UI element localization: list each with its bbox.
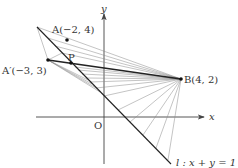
- label-b: B(4, 2): [184, 74, 218, 85]
- point-a-prime: [46, 58, 50, 62]
- point-b: [179, 77, 183, 81]
- fan-lines: [37, 27, 181, 160]
- label-y-axis: y: [100, 3, 107, 14]
- label-a-prime: A′(−3, 3): [1, 65, 47, 76]
- label-origin: O: [94, 120, 102, 131]
- diagram-canvas: A(−2, 4) A′(−3, 3) P B(4, 2) O x y l : x…: [0, 0, 238, 168]
- label-line-l: l : x + y = 1: [176, 157, 236, 168]
- point-a: [65, 38, 69, 42]
- label-x-axis: x: [209, 111, 215, 122]
- label-p: P: [68, 52, 75, 63]
- label-a: A(−2, 4): [51, 24, 95, 35]
